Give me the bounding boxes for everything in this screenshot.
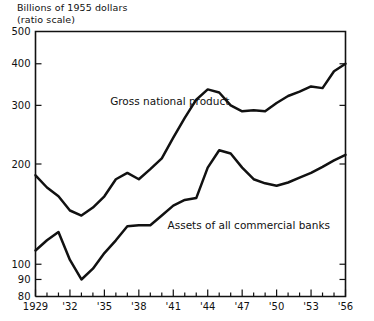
y-tick-label: 200 [11, 159, 30, 170]
series-label-gnp: Gross national product [110, 95, 229, 107]
series-line-gnp [36, 64, 346, 216]
x-tick-label: '56 [338, 301, 353, 312]
x-tick-label: '47 [234, 301, 249, 312]
x-tick-label: '35 [97, 301, 112, 312]
axis-frame-path [36, 32, 346, 297]
axis-frame [36, 32, 346, 297]
x-axis-tick-labels: 1929'32'35'38'41'44'47'50'53'56 [23, 301, 353, 312]
x-tick-label: 1929 [23, 301, 48, 312]
x-tick-label: '50 [269, 301, 284, 312]
y-tick-label: 100 [11, 259, 30, 270]
series-label-bank-assets: Assets of all commercial banks [168, 219, 330, 231]
y-tick-label: 500 [11, 26, 30, 37]
x-tick-label: '53 [303, 301, 318, 312]
plot-area: 5004003002001009080 1929'32'35'38'41'44'… [0, 0, 374, 321]
y-axis-tick-labels: 5004003002001009080 [11, 26, 30, 302]
y-tick-label: 300 [11, 100, 30, 111]
x-axis-ticks [36, 290, 346, 297]
x-tick-label: '44 [200, 301, 215, 312]
chart-figure: Billions of 1955 dollars(ratio scale) 50… [0, 0, 374, 321]
series-annotations: Gross national productAssets of all comm… [110, 95, 330, 230]
y-tick-label: 90 [18, 274, 31, 285]
x-tick-label: '32 [62, 301, 77, 312]
x-tick-label: '38 [131, 301, 146, 312]
y-tick-label: 400 [11, 58, 30, 69]
x-tick-label: '41 [166, 301, 181, 312]
